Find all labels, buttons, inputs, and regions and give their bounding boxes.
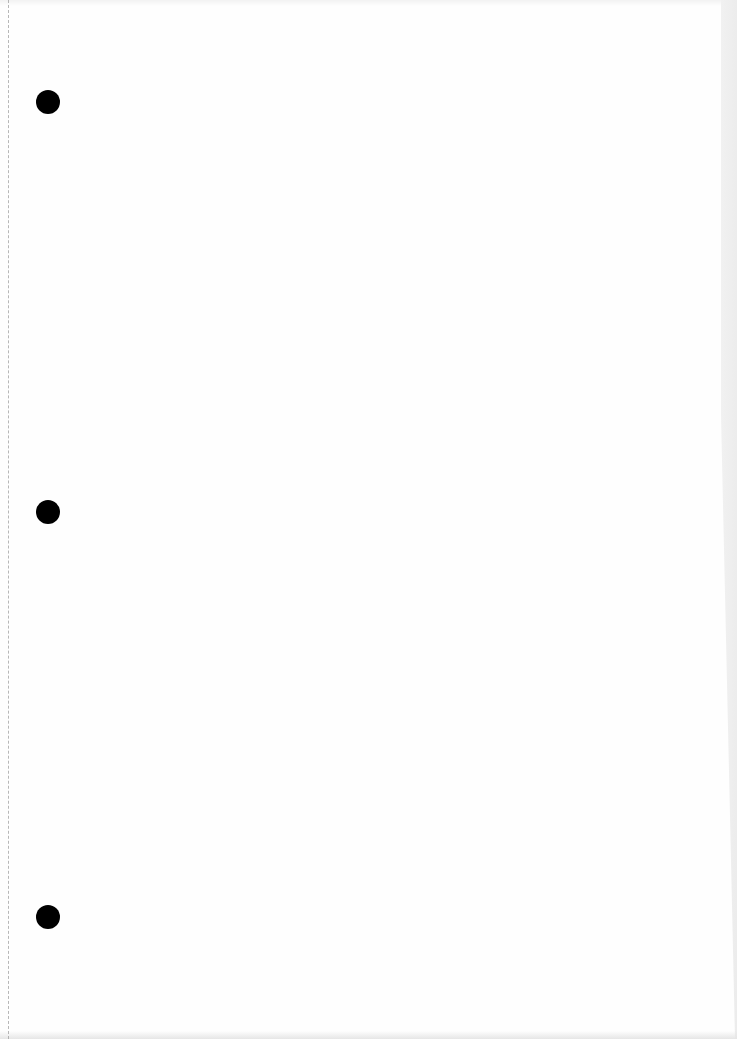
top-scan-edge	[0, 0, 737, 6]
perforation-line	[8, 0, 9, 1039]
right-scan-edge	[697, 0, 737, 1039]
punch-hole-icon	[36, 500, 60, 524]
punch-hole-icon	[36, 90, 60, 114]
blank-page	[0, 0, 737, 1039]
bottom-scan-edge	[0, 1031, 737, 1039]
punch-hole-icon	[36, 905, 60, 929]
